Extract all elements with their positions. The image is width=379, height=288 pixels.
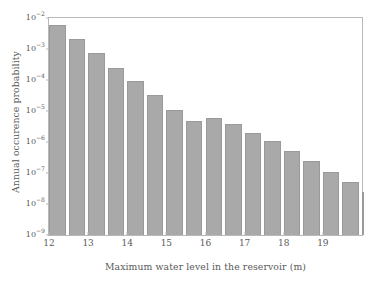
plot-area: 10−210−310−410−510−610−710−810−912131415… [48, 17, 363, 236]
x-axis-tick-label: 13 [82, 239, 93, 248]
x-axis-tick-label: 12 [43, 239, 54, 248]
x-axis-tick-label: 15 [161, 239, 172, 248]
y-axis-tick-mark [46, 49, 50, 50]
x-axis-tick-label: 18 [278, 239, 289, 248]
bar [225, 124, 242, 235]
x-axis-tick-label: 17 [239, 239, 250, 248]
bar [245, 133, 262, 235]
y-axis-tick-label: 10−8 [26, 200, 45, 208]
x-axis-title: Maximum water level in the reservoir (m) [48, 261, 363, 272]
y-axis-tick-mark [46, 204, 50, 205]
bar [127, 81, 144, 235]
bar [108, 68, 125, 235]
bar [342, 182, 359, 235]
x-axis-tick-label: 19 [317, 239, 328, 248]
x-axis-tick-mark [283, 232, 284, 236]
y-axis-tick-label: 10−6 [26, 138, 45, 146]
y-axis-tick-label: 10−9 [26, 231, 45, 239]
bar [147, 95, 164, 235]
y-axis-tick-label: 10−2 [26, 14, 45, 22]
y-axis-title: Annual occurence probability [6, 6, 24, 238]
bar [284, 151, 301, 235]
x-axis-tick-mark [205, 232, 206, 236]
y-axis-tick-mark [46, 173, 50, 174]
bar [186, 121, 203, 235]
x-axis-tick-label: 16 [200, 239, 211, 248]
bar [69, 39, 86, 235]
bar [206, 118, 223, 235]
x-axis-tick-label: 14 [122, 239, 133, 248]
y-axis-tick-mark [46, 80, 50, 81]
chart-figure: Annual occurence probability 10−210−310−… [0, 0, 379, 288]
y-axis-tick-label: 10−4 [26, 76, 45, 84]
x-axis-tick-mark [127, 232, 128, 236]
x-axis-tick-mark [166, 232, 167, 236]
bar [88, 53, 105, 235]
y-axis-tick-label: 10−7 [26, 169, 45, 177]
y-axis-tick-mark [46, 142, 50, 143]
bar [49, 25, 66, 235]
bar-series [49, 18, 362, 235]
y-axis-tick-mark [46, 18, 50, 19]
bar [166, 110, 183, 235]
x-axis-tick-mark [322, 232, 323, 236]
bar [264, 141, 281, 235]
x-axis-tick-mark [244, 232, 245, 236]
y-axis-tick-label: 10−3 [26, 45, 45, 53]
bar [362, 192, 364, 235]
bar [323, 172, 340, 235]
y-axis-tick-label: 10−5 [26, 107, 45, 115]
y-axis-tick-mark [46, 111, 50, 112]
x-axis-tick-mark [88, 232, 89, 236]
x-axis-tick-mark [49, 232, 50, 236]
bar [303, 161, 320, 235]
